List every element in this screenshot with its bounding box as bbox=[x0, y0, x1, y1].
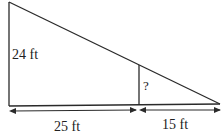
arrowhead-left-icon bbox=[139, 107, 146, 113]
arrowhead-left-icon bbox=[9, 108, 16, 114]
label-right-base: 15 ft bbox=[162, 117, 188, 132]
hypotenuse bbox=[9, 2, 220, 104]
dimension-arrow-left bbox=[9, 107, 137, 114]
arrowhead-right-icon bbox=[130, 107, 137, 113]
dimension-arrow-right bbox=[139, 107, 221, 113]
label-left-height: 24 ft bbox=[12, 47, 38, 62]
arrowhead-right-icon bbox=[214, 107, 221, 113]
base-line bbox=[9, 104, 220, 106]
label-unknown-height: ? bbox=[143, 78, 149, 93]
triangle-diagram: 24 ft ? 25 ft 15 ft bbox=[0, 0, 223, 136]
label-left-base: 25 ft bbox=[54, 119, 80, 134]
